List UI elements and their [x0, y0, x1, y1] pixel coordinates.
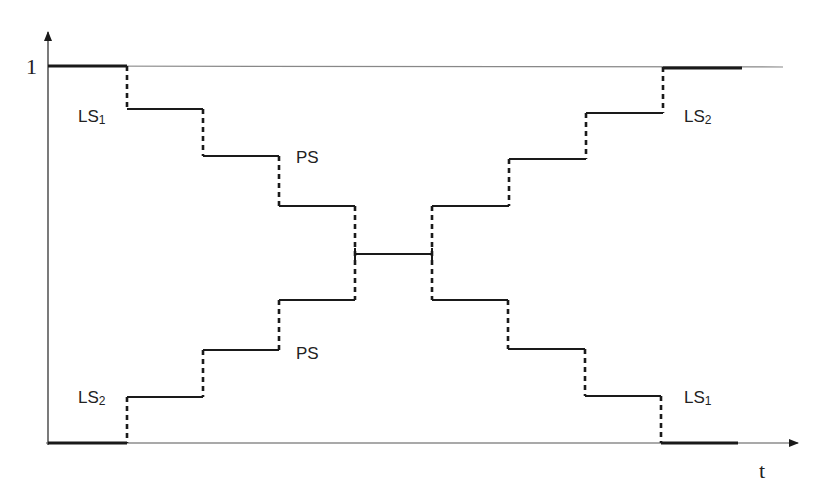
label-ps-top: PS — [296, 148, 319, 167]
label-ps-bottom: PS — [296, 344, 319, 363]
x-axis-label: t — [759, 458, 765, 483]
y-axis-label: 1 — [26, 54, 37, 79]
step-levels — [127, 109, 663, 397]
label-ls2-bottom: LS2 — [78, 388, 106, 408]
label-ls1-top: LS1 — [78, 107, 106, 127]
label-ls2-top: LS2 — [684, 107, 712, 127]
label-ls1-bottom: LS1 — [684, 388, 712, 408]
step-transition-diagram: 1 t — [0, 0, 817, 499]
